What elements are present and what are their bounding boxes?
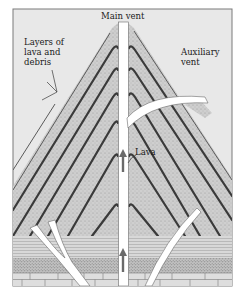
lava-label: Lava [135, 147, 156, 157]
auxiliary-vent-label: Auxiliary vent [181, 47, 220, 67]
main-vent-label: Main vent [101, 11, 144, 21]
layers-label: Layers of lava and debris [24, 37, 64, 67]
